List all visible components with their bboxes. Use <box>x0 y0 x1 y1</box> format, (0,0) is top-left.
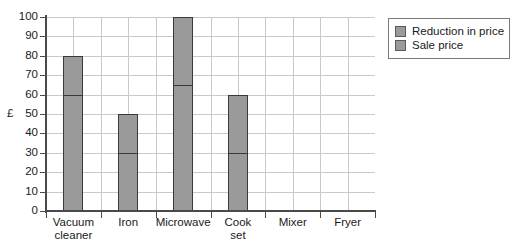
bar-group <box>118 17 138 211</box>
y-axis-tick <box>40 75 46 76</box>
legend-label-sale-price: Sale price <box>412 40 463 52</box>
y-axis-tick <box>40 172 46 173</box>
legend-swatch-reduction-in-price <box>395 26 406 37</box>
bar-segment-sale-price <box>118 153 138 211</box>
bar-segment-reduction-in-price <box>118 114 138 153</box>
x-axis-category-label: Microwave <box>156 216 211 229</box>
x-axis-category-label-line: set <box>211 229 266 242</box>
legend-swatch-sale-price <box>395 40 406 51</box>
y-axis-tick-labels: 0102030405060708090100 <box>0 0 38 248</box>
x-axis-tick <box>375 212 376 218</box>
gridline-vertical <box>320 17 321 211</box>
x-axis-category-label-line: Cook <box>211 216 266 229</box>
bar-segment-sale-price <box>63 95 83 211</box>
legend-item-reduction-in-price: Reduction in price <box>395 26 503 38</box>
bar-group <box>63 17 83 211</box>
y-axis-tick-label: 40 <box>0 127 38 139</box>
bar-group <box>173 17 193 211</box>
gridline-vertical <box>293 17 294 211</box>
bar-chart-figure: 0102030405060708090100 £ VacuumcleanerIr… <box>0 0 514 248</box>
gridline-vertical <box>101 17 102 211</box>
x-axis-category-label-line: cleaner <box>46 229 101 242</box>
bar-segment-reduction-in-price <box>228 95 248 153</box>
bar-segment-reduction-in-price <box>173 17 193 85</box>
bar-segment-reduction-in-price <box>63 56 83 95</box>
x-axis-category-label-line: Microwave <box>156 216 211 229</box>
y-axis-tick-label: 0 <box>0 205 38 217</box>
y-axis-tick-label: 90 <box>0 30 38 42</box>
y-axis-tick <box>40 114 46 115</box>
y-axis-tick-label: 100 <box>0 11 38 23</box>
bar-segment-sale-price <box>228 153 248 211</box>
y-axis-tick-label: 50 <box>0 108 38 120</box>
y-axis-tick-label: 70 <box>0 69 38 81</box>
bar-segment-sale-price <box>173 85 193 211</box>
x-axis-category-label-line: Iron <box>101 216 156 229</box>
legend-item-sale-price: Sale price <box>395 40 503 52</box>
y-axis-tick-label: 30 <box>0 147 38 159</box>
y-axis-tick-label: 60 <box>0 89 38 101</box>
x-axis-category-label-line: Mixer <box>265 216 320 229</box>
y-axis-tick <box>40 17 46 18</box>
x-axis-category-label: Cookset <box>211 216 266 242</box>
y-axis-tick <box>40 36 46 37</box>
y-axis-title: £ <box>7 108 13 120</box>
legend-label-reduction-in-price: Reduction in price <box>412 26 504 38</box>
bar-group <box>228 17 248 211</box>
y-axis-tick <box>40 192 46 193</box>
x-axis-category-label-line: Vacuum <box>46 216 101 229</box>
x-axis-category-label: Fryer <box>320 216 375 229</box>
y-axis-tick-label: 80 <box>0 50 38 62</box>
x-axis-category-label: Vacuumcleaner <box>46 216 101 242</box>
x-axis-category-label: Iron <box>101 216 156 229</box>
gridline-vertical <box>348 17 349 211</box>
gridline-vertical <box>211 17 212 211</box>
y-axis-tick <box>40 133 46 134</box>
x-axis-category-label: Mixer <box>265 216 320 229</box>
x-axis-category-label-line: Fryer <box>320 216 375 229</box>
legend: Reduction in price Sale price <box>388 18 510 59</box>
y-axis-tick-label: 10 <box>0 186 38 198</box>
y-axis-tick <box>40 56 46 57</box>
gridline-vertical <box>265 17 266 211</box>
y-axis-tick-label: 20 <box>0 166 38 178</box>
y-axis-tick <box>40 95 46 96</box>
y-axis-tick <box>40 153 46 154</box>
gridline-vertical <box>156 17 157 211</box>
plot-area <box>46 17 375 211</box>
